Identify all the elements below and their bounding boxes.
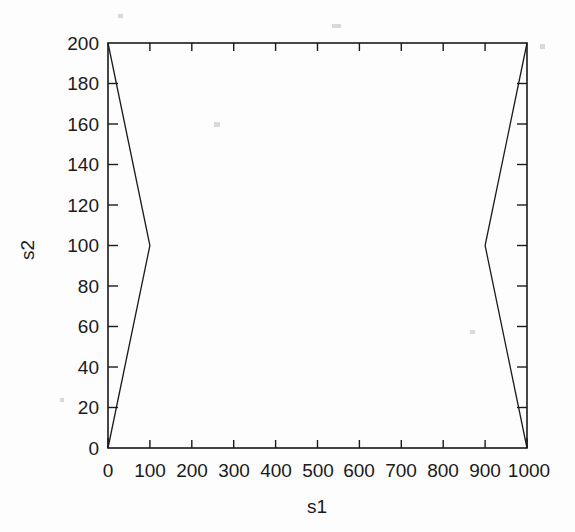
x-tick-label-500: 500 xyxy=(302,460,334,481)
y-axis-title: s2 xyxy=(17,240,38,260)
y-tick-label-20: 20 xyxy=(78,397,99,418)
x-tick-label-100: 100 xyxy=(134,460,166,481)
y-tick-label-60: 60 xyxy=(78,316,99,337)
scan-noise xyxy=(60,14,545,402)
x-tick-label-800: 800 xyxy=(427,460,459,481)
y-tick-label-180: 180 xyxy=(67,73,99,94)
x-axis-ticks-top xyxy=(150,43,485,51)
x-tick-label-1000: 1000 xyxy=(508,460,550,481)
x-tick-label-300: 300 xyxy=(218,460,250,481)
x-tick-label-900: 900 xyxy=(469,460,501,481)
x-tick-label-200: 200 xyxy=(176,460,208,481)
x-axis-title: s1 xyxy=(307,496,327,517)
x-tick-label-700: 700 xyxy=(385,460,417,481)
y-tick-label-40: 40 xyxy=(78,357,99,378)
y-tick-label-0: 0 xyxy=(88,438,99,459)
plot-frame xyxy=(108,43,527,448)
y-tick-label-100: 100 xyxy=(67,235,99,256)
y-tick-label-120: 120 xyxy=(67,195,99,216)
y-tick-label-80: 80 xyxy=(78,276,99,297)
y-axis-ticks-left xyxy=(108,84,118,449)
x-tick-label-600: 600 xyxy=(343,460,375,481)
x-tick-label-0: 0 xyxy=(103,460,114,481)
x-axis-ticks-bottom xyxy=(108,438,527,448)
x-tick-label-400: 400 xyxy=(260,460,292,481)
y-tick-label-200: 200 xyxy=(67,33,99,54)
y-axis-ticks-right xyxy=(517,84,527,408)
line-chart: 200 180 160 140 120 100 80 60 40 20 0 0 … xyxy=(0,0,575,532)
y-tick-label-160: 160 xyxy=(67,114,99,135)
chart-figure: 200 180 160 140 120 100 80 60 40 20 0 0 … xyxy=(0,0,575,532)
y-tick-label-140: 140 xyxy=(67,154,99,175)
